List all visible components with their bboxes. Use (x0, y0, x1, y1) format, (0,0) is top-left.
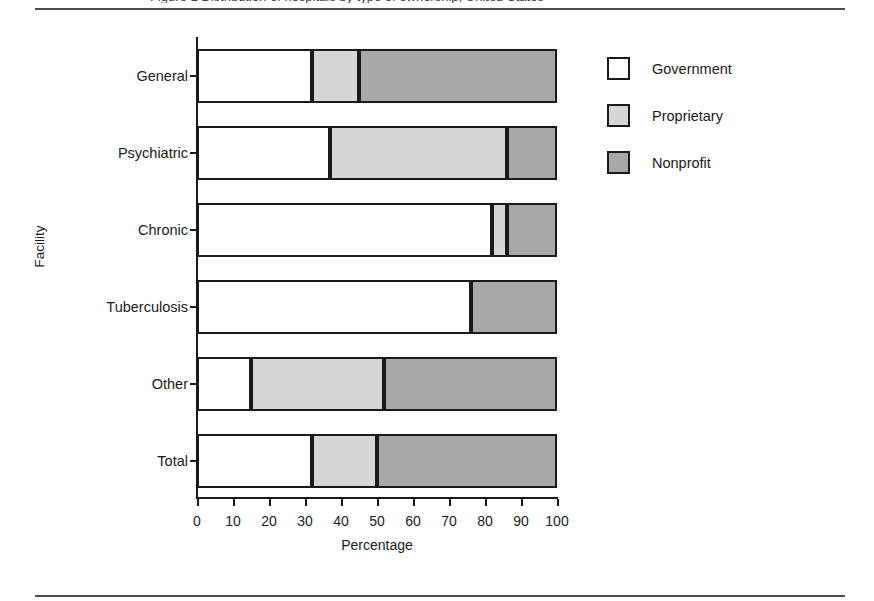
legend-item-label: Nonprofit (652, 155, 711, 171)
x-axis-tick (485, 499, 487, 506)
y-axis-tick-label: General (20, 68, 188, 84)
y-axis-tick-label: Psychiatric (20, 145, 188, 161)
bar-segment (197, 126, 330, 180)
legend-item: Nonprofit (607, 139, 837, 186)
x-axis-tick (305, 499, 307, 506)
legend-item-label: Proprietary (652, 108, 723, 124)
x-axis-tick-label: 30 (297, 513, 313, 529)
x-axis-tick-label: 0 (193, 513, 201, 529)
x-axis-tick-label: 90 (513, 513, 529, 529)
figure-caption-fragment: Figure 1 Distribution of hospitals by ty… (150, 0, 710, 3)
x-axis-title: Percentage (197, 537, 557, 553)
bar-segment (384, 357, 557, 411)
y-axis-tick (190, 383, 197, 385)
x-axis-tick-label: 10 (225, 513, 241, 529)
x-axis-tick (557, 499, 559, 506)
y-axis-tick (190, 75, 197, 77)
x-axis-tick (233, 499, 235, 506)
x-axis-tick (413, 499, 415, 506)
y-axis-tick-label: Tuberculosis (20, 299, 188, 315)
y-axis-tick (190, 460, 197, 462)
legend-item: Government (607, 45, 837, 92)
bar-segment (330, 126, 506, 180)
x-axis-tick (521, 499, 523, 506)
x-axis-tick-label: 100 (545, 513, 568, 529)
x-axis-tick-label: 40 (333, 513, 349, 529)
bar-segment (359, 49, 557, 103)
figure-bottom-rule (35, 595, 845, 597)
x-axis-tick-label: 60 (405, 513, 421, 529)
x-axis-tick-label: 50 (369, 513, 385, 529)
y-axis-tick-labels: GeneralPsychiatricChronicTuberculosisOth… (20, 37, 188, 487)
bar-segment (507, 126, 557, 180)
x-axis-tick-label: 20 (261, 513, 277, 529)
chart-legend: GovernmentProprietaryNonprofit (607, 45, 837, 186)
legend-item-label: Government (652, 61, 732, 77)
y-axis-tick-label: Other (20, 376, 188, 392)
legend-swatch-icon (607, 104, 630, 127)
bar-segment (471, 280, 557, 334)
x-axis-tick (341, 499, 343, 506)
bar-segment (197, 357, 251, 411)
x-axis-tick (197, 499, 199, 506)
bar-segment (492, 203, 506, 257)
stacked-bar-chart: Facility GeneralPsychiatricChronicTuberc… (0, 9, 874, 595)
bar-segment (312, 434, 377, 488)
y-axis-tick (190, 229, 197, 231)
legend-item: Proprietary (607, 92, 837, 139)
x-axis-tick (269, 499, 271, 506)
x-axis-tick-label: 80 (477, 513, 493, 529)
y-axis-line (196, 37, 198, 499)
legend-swatch-icon (607, 57, 630, 80)
y-axis-tick-label: Chronic (20, 222, 188, 238)
y-axis-tick (190, 152, 197, 154)
y-axis-tick (190, 306, 197, 308)
x-axis-tick-label: 70 (441, 513, 457, 529)
bar-segment (197, 203, 492, 257)
bar-segment (312, 49, 359, 103)
x-axis-tick (449, 499, 451, 506)
bar-segment (251, 357, 384, 411)
bar-segment (197, 49, 312, 103)
bar-segment (197, 280, 471, 334)
y-axis-tick-label: Total (20, 453, 188, 469)
plot-area: 0102030405060708090100 (197, 37, 557, 499)
bar-segment (377, 434, 557, 488)
legend-swatch-icon (607, 151, 630, 174)
x-axis-tick (377, 499, 379, 506)
bar-segment (197, 434, 312, 488)
bar-segment (507, 203, 557, 257)
